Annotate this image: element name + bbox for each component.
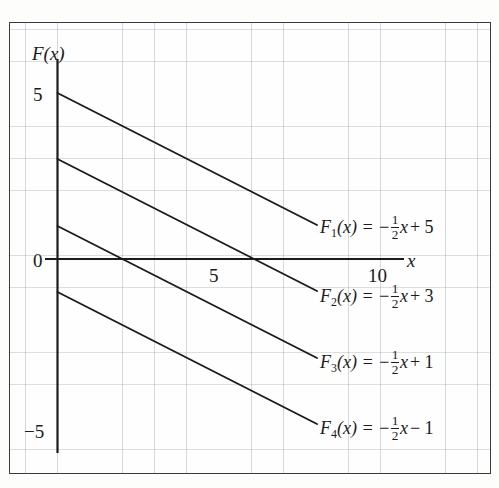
y-tick-minus5: −5 — [24, 422, 44, 441]
f2-function-name: F — [320, 286, 331, 306]
f4-fraction: 12 — [391, 414, 400, 443]
f1-denominator: 2 — [391, 227, 400, 242]
y-tick-5: 5 — [33, 85, 43, 104]
f1-tail: + 5 — [408, 217, 436, 237]
f4-numerator: 1 — [391, 414, 400, 428]
line-f4 — [58, 292, 318, 424]
f1-numerator: 1 — [391, 213, 400, 227]
f2-tail: + 3 — [408, 286, 436, 306]
f1-function-name: F — [320, 217, 331, 237]
f4-argument: (x) = − — [337, 418, 390, 438]
x-tick-5: 5 — [209, 266, 219, 285]
equation-label-f1: F1(x) = −12x+ 5 — [320, 213, 436, 242]
f1-variable: x — [400, 217, 408, 237]
f3-variable: x — [400, 352, 408, 372]
f3-denominator: 2 — [391, 362, 400, 377]
f2-denominator: 2 — [391, 296, 400, 311]
f2-fraction: 12 — [391, 282, 400, 311]
equation-label-f4: F4(x) = −12x− 1 — [320, 414, 436, 443]
line-f2 — [58, 159, 318, 291]
equation-label-f2: F2(x) = −12x+ 3 — [320, 282, 436, 311]
f2-variable: x — [400, 286, 408, 306]
f4-variable: x — [400, 418, 408, 438]
y-axis-label: F(x) — [32, 44, 65, 63]
equation-label-f3: F3(x) = −12x+ 1 — [320, 348, 436, 377]
f4-tail: − 1 — [408, 418, 436, 438]
f2-numerator: 1 — [391, 282, 400, 296]
f3-argument: (x) = − — [337, 352, 390, 372]
y-tick-0: 0 — [33, 251, 43, 270]
f3-tail: + 1 — [408, 352, 436, 372]
f1-argument: (x) = − — [337, 217, 390, 237]
f4-denominator: 2 — [391, 428, 400, 443]
line-f1 — [58, 93, 318, 225]
f1-fraction: 12 — [391, 213, 400, 242]
f4-function-name: F — [320, 418, 331, 438]
graph-figure: F(x) x 5 0 −5 5 10 F1(x) = −12x+ 5 F2(x)… — [0, 0, 499, 488]
f3-fraction: 12 — [391, 348, 400, 377]
f2-argument: (x) = − — [337, 286, 390, 306]
f3-numerator: 1 — [391, 348, 400, 362]
line-f3 — [58, 226, 318, 358]
f3-function-name: F — [320, 352, 331, 372]
x-axis-label: x — [407, 251, 415, 270]
